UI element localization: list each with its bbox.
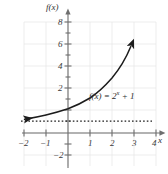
x-tick-label-4: 4: [152, 139, 157, 148]
equation-base: f(x) = 2: [89, 91, 117, 101]
function-equation-label: f(x) = 2x + 1: [89, 92, 135, 101]
x-tick-label-3: 3: [132, 139, 137, 148]
x-tick-label-2: 2: [110, 139, 115, 148]
x-axis-label: x: [158, 136, 162, 145]
x-tick-label-neg1: −1: [40, 139, 51, 148]
x-axis: [22, 130, 160, 137]
y-tick-label-neg2: −2: [53, 151, 64, 160]
y-tick-label-4: 4: [58, 62, 63, 71]
x-tick-label-neg2: −2: [18, 139, 29, 148]
exponential-function-graph: f(x) x 8 6 4 2 −2 −2 −1 1 2 3 4 f(x) = 2…: [0, 0, 168, 174]
y-tick-label-2: 2: [58, 84, 63, 93]
equation-tail: + 1: [119, 91, 134, 101]
y-tick-label-6: 6: [58, 40, 63, 49]
y-tick-label-8: 8: [58, 18, 63, 27]
x-tick-label-1: 1: [88, 139, 93, 148]
y-axis: [65, 14, 72, 168]
exponential-curve: [25, 47, 131, 120]
y-axis-label: f(x): [46, 3, 59, 12]
